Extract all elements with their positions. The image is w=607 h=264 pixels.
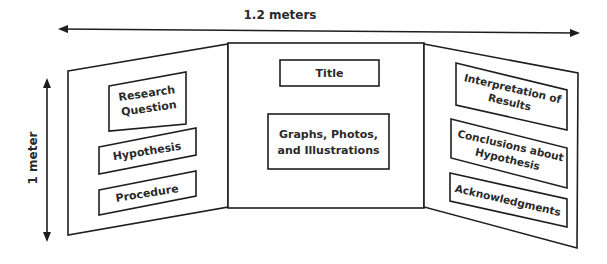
center-panel: Title Graphs, Photos, and Illustrations: [228, 43, 424, 208]
width-dimension: 1.2 meters: [60, 8, 578, 33]
svg-text:Title: Title: [316, 67, 344, 80]
svg-text:Graphs, Photos,: Graphs, Photos,: [279, 128, 378, 141]
science-fair-board-diagram: 1.2 meters 1 meter Research Question Hyp…: [0, 0, 607, 264]
section-title: Title: [280, 60, 379, 86]
height-label: 1 meter: [26, 131, 40, 184]
width-label: 1.2 meters: [243, 8, 316, 22]
left-panel: Research Question Hypothesis Procedure: [68, 44, 228, 235]
right-panel: Interpretation of Results Conclusions ab…: [424, 44, 578, 248]
section-graphs-photos: Graphs, Photos, and Illustrations: [268, 114, 389, 169]
svg-text:and Illustrations: and Illustrations: [277, 144, 379, 157]
height-dimension: 1 meter: [26, 80, 47, 240]
width-arrow-icon: [60, 29, 578, 33]
